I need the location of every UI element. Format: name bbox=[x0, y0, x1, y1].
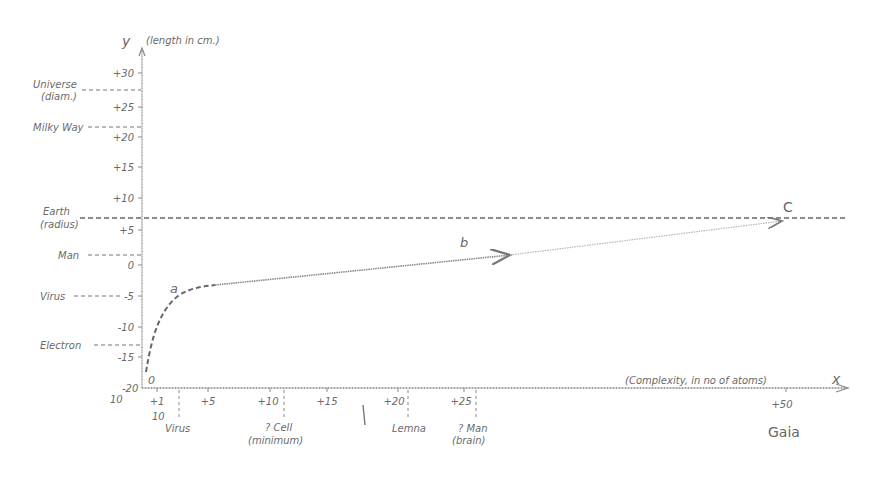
y-axis-symbol: y bbox=[121, 33, 131, 49]
svg-text:Virus: Virus bbox=[165, 423, 190, 434]
svg-text:Virus: Virus bbox=[40, 291, 65, 302]
stray-mark bbox=[363, 405, 365, 425]
x-ticks: +110 +5 +10 +15 +20 +25 +50 bbox=[150, 388, 793, 422]
svg-text:+10: +10 bbox=[257, 396, 278, 407]
point-a-label: a bbox=[170, 281, 178, 296]
origin-label: 0 bbox=[148, 374, 155, 387]
x-axis-symbol: x bbox=[831, 371, 841, 387]
marker-electron: Electron bbox=[40, 340, 141, 351]
curve-segment-bc bbox=[510, 221, 782, 255]
svg-text:+1: +1 bbox=[150, 396, 165, 407]
svg-text:+30: +30 bbox=[113, 68, 134, 79]
svg-text:(radius): (radius) bbox=[40, 219, 79, 230]
svg-text:Earth: Earth bbox=[43, 206, 70, 217]
point-c-label: C bbox=[783, 199, 793, 215]
svg-text:+15: +15 bbox=[316, 396, 337, 407]
curve-segment-a bbox=[146, 285, 215, 372]
svg-text:+10: +10 bbox=[113, 193, 134, 204]
svg-text:+25: +25 bbox=[113, 102, 134, 113]
y-ticks: +30 +25 +20 +15 +10 +5 0 -5 -10 -15 bbox=[113, 68, 142, 363]
marker-earth: Earth (radius) bbox=[40, 206, 848, 230]
svg-text:-10: -10 bbox=[118, 322, 134, 333]
svg-text:+20: +20 bbox=[383, 396, 404, 407]
svg-text:(minimum): (minimum) bbox=[248, 435, 303, 446]
svg-text:10: 10 bbox=[152, 411, 165, 422]
svg-text:+15: +15 bbox=[113, 162, 134, 173]
y-markers: Universe (diam.) Milky Way Earth (radius… bbox=[33, 79, 848, 351]
svg-text:(diam.): (diam.) bbox=[41, 91, 77, 102]
gaia-label: Gaia bbox=[768, 424, 800, 440]
point-b-label: b bbox=[460, 235, 468, 250]
svg-text:? Man: ? Man bbox=[458, 423, 488, 434]
svg-text:+50: +50 bbox=[771, 399, 792, 410]
svg-text:(brain): (brain) bbox=[452, 435, 486, 446]
marker-x-virus: Virus bbox=[165, 390, 190, 434]
y-axis-label: (length in cm.) bbox=[146, 35, 220, 46]
svg-text:-5: -5 bbox=[124, 291, 134, 302]
origin-exponent: -20 bbox=[122, 383, 138, 394]
svg-text:Man: Man bbox=[58, 250, 79, 261]
svg-text:? Cell: ? Cell bbox=[265, 422, 292, 433]
svg-text:Electron: Electron bbox=[40, 340, 81, 351]
svg-text:-15: -15 bbox=[118, 352, 134, 363]
x-axis-label: (Complexity, in no of atoms) bbox=[625, 375, 767, 386]
marker-universe: Universe (diam.) bbox=[33, 79, 141, 102]
svg-text:0: 0 bbox=[128, 260, 134, 271]
marker-virus: Virus bbox=[40, 291, 120, 302]
origin-base: 10 bbox=[110, 394, 123, 405]
svg-text:Lemna: Lemna bbox=[392, 423, 426, 434]
svg-text:+25: +25 bbox=[450, 396, 471, 407]
curve-segment-ab bbox=[215, 255, 510, 285]
svg-text:+5: +5 bbox=[201, 396, 216, 407]
svg-text:+5: +5 bbox=[119, 225, 134, 236]
svg-text:Milky Way: Milky Way bbox=[33, 122, 85, 133]
svg-text:Universe: Universe bbox=[33, 79, 77, 90]
evolution-diagram: y (length in cm.) x (Complexity, in no o… bbox=[0, 0, 876, 479]
svg-text:+20: +20 bbox=[113, 132, 134, 143]
